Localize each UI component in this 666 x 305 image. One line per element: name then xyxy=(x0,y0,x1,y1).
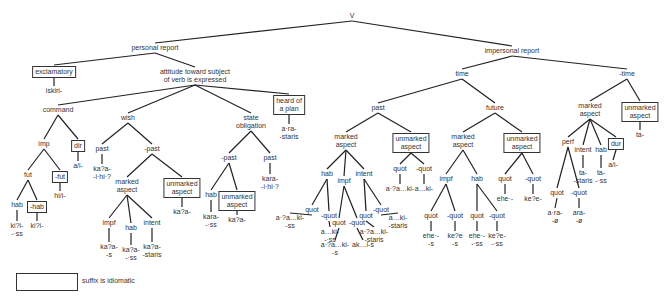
tree-edge xyxy=(346,150,364,169)
tree-node-att: attitude toward subject of verb is expre… xyxy=(160,68,230,84)
tree-edge xyxy=(152,154,182,177)
tree-node-hop: heard of a plan xyxy=(273,95,305,115)
tree-edge xyxy=(378,113,411,132)
tree-node-aaki1: a·?a…ki- xyxy=(386,185,414,193)
tree-node-piq: quot xyxy=(332,219,346,227)
tree-node-shab: hab xyxy=(205,191,217,199)
tree-edge xyxy=(128,85,195,113)
tree-node-fua: unmarked aspect xyxy=(503,133,540,153)
tree-node-fhab: hab xyxy=(471,175,483,183)
tree-edge xyxy=(400,153,411,164)
tree-edge xyxy=(329,221,330,227)
tree-node-whab: hab xyxy=(125,224,137,232)
tree-edge xyxy=(555,198,557,208)
tree-edge xyxy=(109,195,127,218)
legend-label: suffix is idiomatic xyxy=(82,277,135,284)
tree-node-pq: quot xyxy=(550,189,564,197)
tree-node-phq: quot xyxy=(305,206,319,214)
tree-edge xyxy=(557,147,568,188)
tree-edge xyxy=(17,180,28,200)
tree-edge xyxy=(431,184,446,211)
tree-edge xyxy=(463,113,495,132)
tree-edge xyxy=(211,163,229,190)
tree-node-pua: unmarked aspect xyxy=(392,133,429,153)
tree-node-ehess: ehe·- -·ss xyxy=(469,232,485,248)
tree-node-araq: a·ra- -ø xyxy=(548,209,563,225)
tree-node-aakiss: a·?a…ki- -ss xyxy=(276,214,304,230)
tree-edge xyxy=(229,131,251,153)
tree-edge xyxy=(327,179,329,211)
tree-node-tass: ta- -·ss xyxy=(595,169,607,185)
tree-node-fuanq: -quot xyxy=(525,175,541,183)
tree-node-pr: personal report xyxy=(131,44,178,52)
tree-node-wimpf: impf xyxy=(102,219,115,227)
tree-edge xyxy=(44,115,58,139)
tree-node-time: time xyxy=(455,70,468,78)
tree-node-kaihi: ka?a- -i·hi·? xyxy=(93,165,111,181)
tree-node-cmd: command xyxy=(43,106,74,114)
tree-edge xyxy=(366,221,374,227)
tree-edge xyxy=(344,186,357,218)
tree-node-wnpast: -past xyxy=(144,145,160,153)
tree-node-fimpf: impf xyxy=(439,175,452,183)
tree-node-kees: ke?e -s xyxy=(447,232,462,248)
tree-node-excl: exclamatory xyxy=(32,66,76,78)
tree-node-ipr: impersonal report xyxy=(485,47,539,55)
tree-edge xyxy=(28,149,44,170)
tree-edge xyxy=(568,119,590,137)
tree-edge xyxy=(155,21,352,43)
tree-node-kas: ka?a- -s xyxy=(100,243,118,259)
tree-node-arastaris1: a·ra- -staris xyxy=(279,125,298,141)
tree-node-tastaris: ta- -staris xyxy=(573,169,592,185)
tree-edge xyxy=(344,150,346,176)
tree-edge xyxy=(102,123,128,144)
tree-node-puaq: quot xyxy=(393,165,407,173)
tree-node-aakis: a·?a…ki- -s xyxy=(321,241,349,257)
tree-node-v: V xyxy=(350,12,355,20)
tree-node-pint: intent xyxy=(355,170,372,178)
tree-node-spast: past xyxy=(263,154,276,162)
tree-edge xyxy=(128,123,152,144)
tree-edge xyxy=(446,150,463,174)
tree-edge xyxy=(127,195,152,218)
tree-edge xyxy=(495,113,522,132)
tree-node-ehes: ehe·- -s xyxy=(423,232,439,248)
tree-node-puanq: -quot xyxy=(416,165,432,173)
tree-node-fut: fut xyxy=(24,171,32,179)
tree-edge xyxy=(364,179,381,205)
tree-edge xyxy=(54,53,155,65)
tree-node-nhab: hab xyxy=(595,146,607,154)
tree-edge xyxy=(346,113,378,132)
tree-node-kaa2: ka?a- xyxy=(228,216,246,224)
tree-edge xyxy=(446,184,455,211)
tree-edge xyxy=(127,154,152,177)
tree-node-snpast: -past xyxy=(221,154,237,162)
tree-node-aki1: a…ki- xyxy=(415,185,433,193)
tree-node-wint: intent xyxy=(143,219,160,227)
tree-node-aranq: ara- -ø xyxy=(573,209,585,225)
tree-node-phab: hab xyxy=(321,170,333,178)
tree-node-karahi: kara- -i·hi·? xyxy=(261,175,279,191)
tree-edge xyxy=(627,79,640,101)
tree-node-ai1: a/i- xyxy=(73,162,83,170)
tree-node-fhnq: -quot xyxy=(489,212,505,220)
tree-edge xyxy=(613,150,616,160)
tree-node-kass: ka?a- -·ss xyxy=(122,246,140,262)
tree-node-nfut: -fut xyxy=(52,171,68,183)
tree-edge xyxy=(590,79,627,101)
tree-node-finq: -quot xyxy=(447,212,463,220)
tree-edge xyxy=(462,79,495,103)
tree-edge xyxy=(522,153,533,174)
tree-edge xyxy=(364,179,366,211)
tree-edge xyxy=(463,150,477,174)
tree-node-wish: wish xyxy=(121,114,135,122)
tree-node-hii: hi/i- xyxy=(54,192,65,200)
tree-node-ndur: dur xyxy=(608,138,624,150)
tree-node-iskiri: iskiri- xyxy=(46,87,62,95)
tree-edge xyxy=(462,56,512,69)
tree-edge xyxy=(127,195,131,223)
tree-node-pimpf: impf xyxy=(337,177,350,185)
tree-node-nma: marked aspect xyxy=(578,102,601,118)
tree-node-akistaris: a…ki- -staris xyxy=(388,214,407,230)
tree-node-ehe1: ehe·- xyxy=(497,195,513,203)
